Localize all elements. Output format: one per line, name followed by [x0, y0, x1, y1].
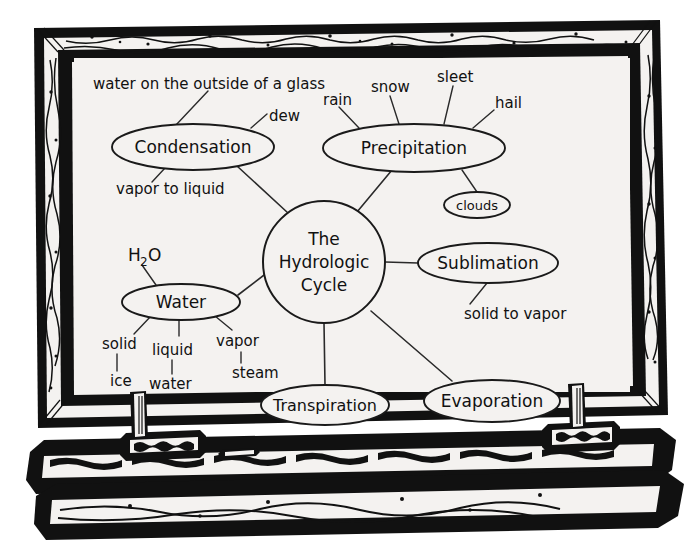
node-hydrologic-cycle[interactable]: The Hydrologic Cycle	[263, 201, 385, 323]
label-rain: rain	[323, 91, 352, 109]
h2o-tail: O	[148, 245, 161, 265]
node-clouds[interactable]: clouds	[444, 192, 510, 218]
node-water[interactable]: Water	[122, 284, 240, 320]
center-label-line-2: Hydrologic	[279, 252, 370, 272]
label-sleet: sleet	[437, 68, 473, 86]
node-evaporation[interactable]: Evaporation	[424, 380, 560, 422]
node-label-clouds: clouds	[456, 198, 498, 213]
node-label-evaporation: Evaporation	[441, 391, 543, 411]
node-transpiration[interactable]: Transpiration	[261, 385, 389, 425]
label-water-outside-glass: water on the outside of a glass	[93, 75, 325, 93]
label-liquid: liquid	[152, 341, 193, 359]
h2o-subscript: 2	[140, 255, 148, 269]
label-vapor-to-liquid: vapor to liquid	[116, 180, 225, 198]
label-snow: snow	[371, 78, 410, 96]
label-vapor: vapor	[216, 332, 260, 350]
label-solid: solid	[102, 335, 137, 353]
node-sublimation[interactable]: Sublimation	[418, 243, 558, 283]
label-water-state: water	[149, 375, 193, 393]
node-label-sublimation: Sublimation	[437, 253, 538, 273]
h2o-base: H	[128, 245, 141, 265]
center-label-line-1: The	[307, 229, 340, 249]
label-solid-to-vapor: solid to vapor	[464, 305, 567, 323]
label-steam: steam	[232, 364, 279, 382]
node-condensation[interactable]: Condensation	[112, 124, 274, 170]
frame-leg-left	[130, 391, 148, 439]
center-label-line-3: Cycle	[301, 275, 347, 295]
label-ice: ice	[110, 372, 132, 390]
node-label-precipitation: Precipitation	[361, 138, 467, 158]
label-hail: hail	[495, 94, 522, 112]
concept-map-board: Condensation Precipitation clouds Water …	[0, 0, 690, 550]
node-label-condensation: Condensation	[135, 137, 252, 157]
label-dew: dew	[269, 107, 300, 125]
chalkboard-scene: Condensation Precipitation clouds Water …	[0, 0, 690, 550]
node-precipitation[interactable]: Precipitation	[323, 124, 505, 172]
frame-leg-right	[568, 383, 586, 429]
node-label-water: Water	[156, 292, 206, 312]
node-label-transpiration: Transpiration	[272, 396, 377, 415]
